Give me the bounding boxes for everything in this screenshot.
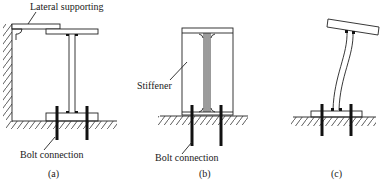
label-lateral-supporting: Lateral supporting <box>30 1 104 12</box>
stiffener-frame <box>182 28 233 115</box>
buckled-column <box>331 30 355 111</box>
label-bolt-connection: Bolt connection <box>155 152 219 163</box>
column-a <box>66 34 78 113</box>
column-top-plate <box>46 29 98 34</box>
wall-hatch <box>3 24 12 122</box>
caption-a: (a) <box>48 168 59 180</box>
ground-hatch <box>6 121 117 129</box>
base-plate <box>46 113 98 121</box>
column-base-diagram: Lateral supporting Bolt connection (a) <box>0 0 382 181</box>
caption-b: (b) <box>199 168 211 180</box>
ground-hatch <box>158 116 248 125</box>
base-plate <box>311 111 362 117</box>
leader-line <box>28 12 36 24</box>
caption-c: (c) <box>331 168 342 180</box>
panel-b: Stiffener Bolt connection (b) <box>137 28 248 180</box>
panel-c: (c) <box>291 19 379 180</box>
label-bolt-connection: Bolt connection <box>20 149 84 160</box>
panel-a: Lateral supporting Bolt connection (a) <box>3 1 117 180</box>
ground-hatch <box>291 117 376 126</box>
label-stiffener: Stiffener <box>137 80 172 91</box>
